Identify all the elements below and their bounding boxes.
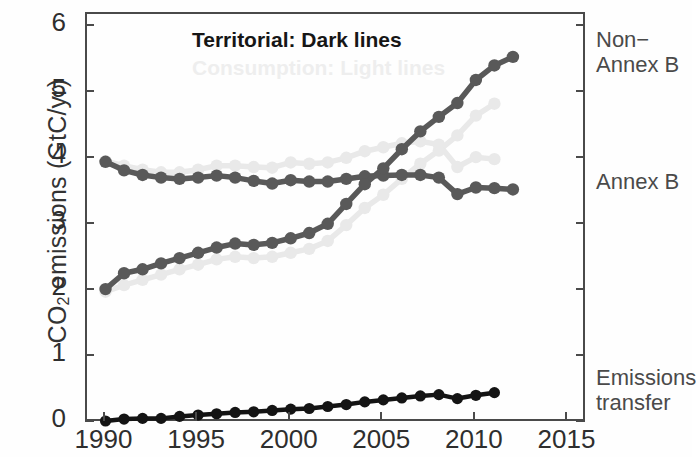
series-emissions-transfer bbox=[100, 387, 500, 427]
legend-territorial: Territorial: Dark lines bbox=[192, 28, 402, 52]
x-tick-label: 2005 bbox=[336, 424, 426, 455]
y-tick-right bbox=[576, 288, 585, 290]
data-point-marker bbox=[118, 413, 129, 424]
y-tick-right bbox=[576, 90, 585, 92]
data-point-marker bbox=[155, 413, 166, 424]
data-point-marker bbox=[489, 387, 500, 398]
legend-consumption: Consumption: Light lines bbox=[192, 56, 445, 80]
plot-area: Territorial: Dark lines Consumption: Lig… bbox=[85, 12, 585, 421]
data-point-marker bbox=[322, 401, 333, 412]
y-axis-title-suffix: emissions (GtC/yr) bbox=[43, 79, 71, 297]
x-tick bbox=[288, 412, 290, 421]
y-tick-right bbox=[576, 156, 585, 158]
x-tick bbox=[195, 412, 197, 421]
x-tick-label: 2015 bbox=[521, 424, 611, 455]
x-tick-label: 1990 bbox=[59, 424, 149, 455]
data-point-marker bbox=[248, 406, 259, 417]
x-tick bbox=[473, 412, 475, 421]
y-tick bbox=[85, 420, 94, 422]
x-tick-label: 1995 bbox=[151, 424, 241, 455]
data-point-marker bbox=[137, 413, 148, 424]
y-tick bbox=[85, 354, 94, 356]
y-tick-label: 5 bbox=[26, 73, 66, 104]
data-point-marker bbox=[415, 390, 426, 401]
y-tick-label: 6 bbox=[26, 7, 66, 38]
data-point-marker bbox=[211, 408, 222, 419]
data-point-marker bbox=[230, 407, 241, 418]
data-point-marker bbox=[470, 390, 481, 401]
annotation-emissions-transfer: Emissions transfer bbox=[596, 366, 696, 415]
annotation-non-annex-b: Non− Annex B bbox=[596, 28, 679, 77]
x-tick-label: 2000 bbox=[244, 424, 334, 455]
data-point-marker bbox=[304, 403, 315, 414]
y-tick-right bbox=[576, 354, 585, 356]
data-point-marker bbox=[267, 405, 278, 416]
data-point-marker bbox=[433, 389, 444, 400]
data-point-marker bbox=[359, 396, 370, 407]
x-tick bbox=[380, 412, 382, 421]
y-tick bbox=[85, 288, 94, 290]
x-tick bbox=[103, 412, 105, 421]
y-tick-right bbox=[576, 222, 585, 224]
y-tick bbox=[85, 90, 94, 92]
data-point-marker bbox=[378, 394, 389, 405]
data-point-marker bbox=[396, 392, 407, 403]
data-point-marker bbox=[341, 399, 352, 410]
annotation-annex-b: Annex B bbox=[596, 170, 679, 195]
y-tick-label: 4 bbox=[26, 139, 66, 170]
y-tick-right bbox=[576, 24, 585, 26]
x-tick bbox=[565, 412, 567, 421]
data-point-marker bbox=[174, 411, 185, 422]
x-tick-label: 2010 bbox=[429, 424, 519, 455]
y-tick bbox=[85, 222, 94, 224]
y-tick-label: 3 bbox=[26, 205, 66, 236]
y-tick-label: 1 bbox=[26, 337, 66, 368]
y-tick-right bbox=[576, 420, 585, 422]
data-point-marker bbox=[452, 393, 463, 404]
y-tick bbox=[85, 156, 94, 158]
y-tick-label: 2 bbox=[26, 271, 66, 302]
y-tick bbox=[85, 24, 94, 26]
